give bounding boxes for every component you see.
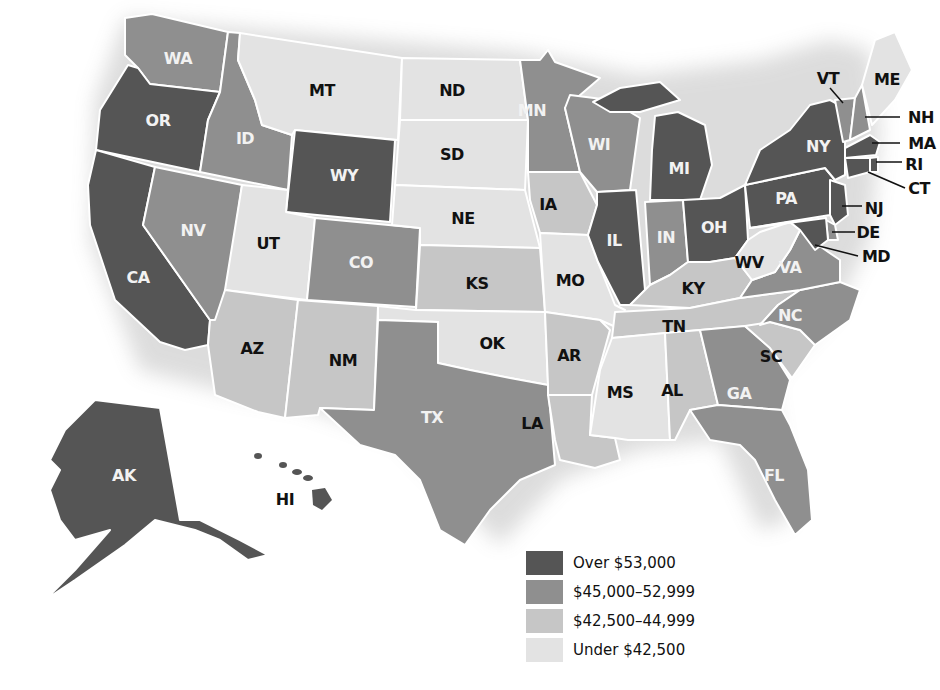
label-NM: NM [329, 351, 357, 370]
label-WY: WY [330, 166, 358, 185]
legend: Over $53,000 $45,000–52,999 $42,500–44,9… [526, 548, 695, 664]
label-LA: LA [521, 414, 543, 433]
legend-label: $42,500–44,999 [573, 612, 695, 630]
label-NV: NV [181, 221, 206, 240]
label-FL: FL [764, 466, 784, 485]
us-choropleth-map [0, 0, 940, 690]
legend-item-over-53000: Over $53,000 [526, 548, 695, 577]
label-MT: MT [309, 81, 335, 100]
legend-item-under-42500: Under $42,500 [526, 635, 695, 664]
label-OK: OK [480, 334, 505, 353]
label-MS: MS [607, 383, 633, 402]
label-VT: VT [817, 69, 839, 88]
label-DE: DE [856, 223, 879, 242]
label-NH: NH [908, 108, 934, 127]
label-OH: OH [701, 218, 727, 237]
label-SC: SC [760, 347, 782, 366]
label-RI: RI [905, 155, 922, 174]
label-IA: IA [539, 195, 556, 214]
label-CO: CO [349, 253, 373, 272]
label-HI: HI [276, 490, 294, 509]
legend-swatch [526, 551, 563, 575]
legend-item-45000-52999: $45,000–52,999 [526, 577, 695, 606]
label-MD: MD [862, 247, 890, 266]
legend-swatch [526, 609, 563, 633]
legend-swatch [526, 638, 563, 662]
label-AK: AK [112, 466, 136, 485]
label-NJ: NJ [865, 199, 883, 218]
label-MA: MA [908, 134, 935, 153]
legend-swatch [526, 580, 563, 604]
label-SD: SD [440, 145, 464, 164]
label-CA: CA [126, 268, 149, 287]
label-WA: WA [164, 49, 192, 68]
label-AR: AR [557, 346, 581, 365]
label-UT: UT [257, 234, 280, 253]
legend-item-42500-44999: $42,500–44,999 [526, 606, 695, 635]
label-KY: KY [682, 279, 705, 298]
state-RI [870, 157, 878, 172]
state-NJ [830, 180, 848, 225]
label-AZ: AZ [241, 339, 264, 358]
label-IL: IL [606, 231, 621, 250]
label-IN: IN [657, 228, 675, 247]
label-TX: TX [421, 408, 443, 427]
label-PA: PA [775, 189, 797, 208]
label-GA: GA [727, 384, 752, 403]
label-AL: AL [661, 381, 683, 400]
label-WI: WI [588, 135, 611, 154]
legend-label: Over $53,000 [573, 554, 676, 572]
label-VA: VA [779, 258, 802, 277]
state-AK [45, 400, 268, 600]
label-OR: OR [146, 111, 171, 130]
label-MI: MI [669, 159, 690, 178]
label-CT: CT [908, 179, 930, 198]
label-KS: KS [466, 274, 489, 293]
label-ND: ND [439, 81, 465, 100]
label-NC: NC [778, 306, 802, 325]
label-MN: MN [518, 101, 546, 120]
label-ME: ME [874, 70, 900, 89]
label-MO: MO [556, 271, 585, 290]
legend-label: Under $42,500 [573, 641, 685, 659]
label-NY: NY [806, 137, 830, 156]
label-TN: TN [662, 317, 685, 336]
label-WV: WV [734, 253, 763, 272]
legend-label: $45,000–52,999 [573, 583, 695, 601]
label-ID: ID [236, 129, 254, 148]
label-NE: NE [451, 209, 474, 228]
